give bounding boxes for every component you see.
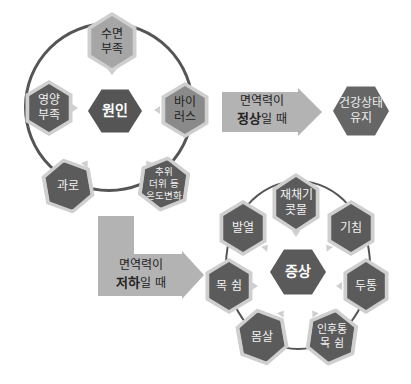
low-arrow-label: 면역력이 저하일 때 [98,257,184,293]
symptoms-center-label: 증상 [285,263,311,281]
result-healthy: 건강상태유지 [333,85,389,137]
causes-center-label: 원인 [102,102,128,120]
hoarse-pointer [252,282,258,290]
sleep-pointer [108,70,116,75]
headache-pointer [336,282,342,290]
low-arrow-head [182,251,204,299]
normal-arrow-label: 면역력이 정상일 때 [222,93,302,129]
sneeze-pointer [292,231,300,237]
virus-pointer [154,106,160,114]
nutrition-pointer [72,104,78,112]
